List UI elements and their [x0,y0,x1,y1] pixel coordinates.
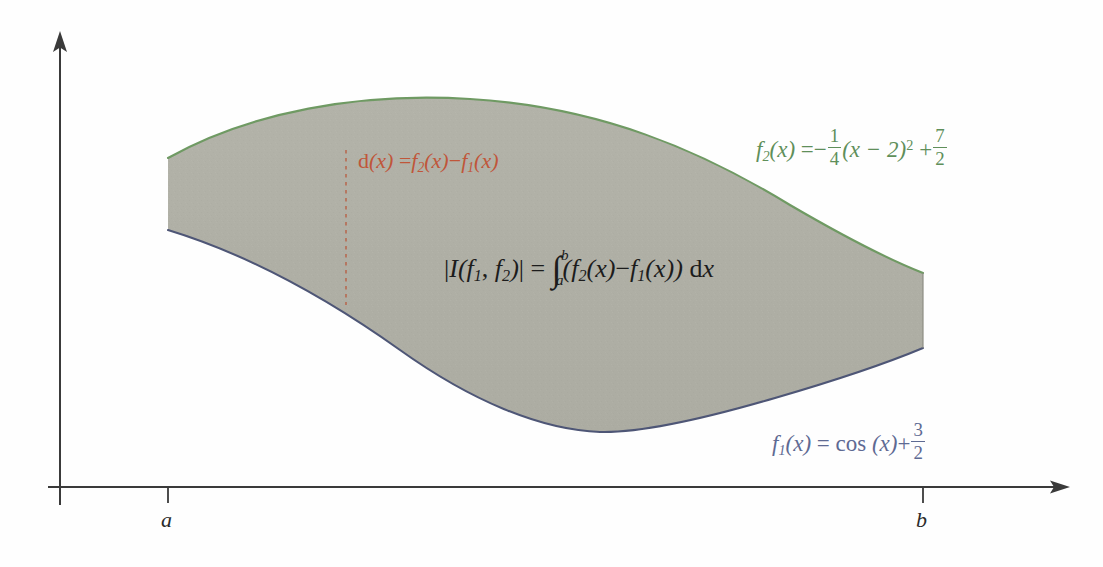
integrand-f1-arg: (x) [645,254,674,283]
integral-f-first: f [467,254,474,283]
f2-minus-sign: − [814,137,827,162]
integral-f-second: f [495,254,502,283]
f1-arg: (x) [786,431,812,456]
f2-plus-sign: + [919,137,932,162]
integral-paren-close: ) [510,254,519,283]
f1-three-halves-fraction: 32 [911,420,924,462]
integrand-paren-close: ) [674,254,683,283]
f2-seven-halves-numerator: 7 [933,126,946,147]
d-f2-arg: (x) [424,148,448,173]
f2-quarter-fraction: 14 [828,126,841,168]
differential-x: x [702,254,714,283]
integral-sign: ∫ba [552,252,562,288]
integral-formula: |I(f1, f2)| = ∫ba(f2(x)−f1(x)) dx [444,250,714,286]
f1-three-halves-denominator: 2 [911,441,924,463]
integral-upper-limit: b [561,248,569,263]
d-f1-arg: (x) [474,148,498,173]
f2-equals: = [801,137,814,162]
integral-equals: = [531,254,546,283]
f1-equals: = [817,431,830,456]
integral-lower-limit: a [556,273,564,288]
abs-bar-close: | [519,254,524,283]
f2-seven-halves-denominator: 2 [933,147,946,169]
integrand-f2-arg: (x) [587,254,616,283]
f2-seven-halves-fraction: 72 [933,126,946,168]
differential-d: d [689,254,702,283]
f1-equation-label: f1(x) = cos (x)+32 [772,420,926,462]
d-of-x-label: d(x) =f2(x)−f1(x) [358,150,498,174]
f2-equation-label: f2(x) =−14(x − 2)2 +72 [756,126,948,168]
integral-I: I [449,254,458,283]
f2-body: (x − 2) [842,137,906,162]
d-arg: (x) [369,148,393,173]
d-minus-sign: − [449,148,461,173]
f2-quarter-denominator: 4 [828,147,841,169]
integral-f-first-subscript: 1 [474,267,482,284]
f1-cos-arg: (x) [872,431,898,456]
integrand-minus: − [615,254,630,283]
integral-comma: , [482,254,489,283]
x-axis [48,481,1070,494]
f2-quarter-numerator: 1 [828,126,841,147]
f1-fn-subscript: 1 [778,442,785,458]
f2-fn-subscript: 2 [762,148,769,164]
figure-canvas: f2(x) =−14(x − 2)2 +72 f1(x) = cos (x)+3… [0,0,1103,567]
integral-f-second-subscript: 2 [502,267,510,284]
d-letter: d [358,148,369,173]
f1-three-halves-numerator: 3 [911,420,924,441]
f2-arg: (x) [770,137,796,162]
f2-exponent: 2 [906,137,913,153]
d-equals: = [399,148,411,173]
y-axis [53,31,67,505]
f1-cos: cos [836,431,867,456]
integrand-f2-subscript: 2 [578,267,586,284]
tick-label-b: b [916,509,927,531]
integral-paren-open: ( [458,254,467,283]
f1-plus-sign: + [897,431,910,456]
tick-label-a: a [161,509,172,531]
